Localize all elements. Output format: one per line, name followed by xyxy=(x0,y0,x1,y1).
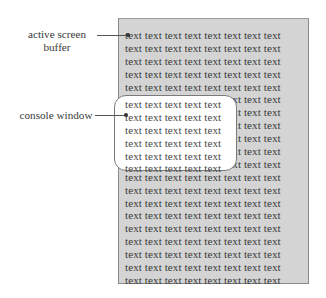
console-window: text text text text text text text text … xyxy=(114,95,237,171)
buffer-row: text text text text text text text text xyxy=(125,29,308,42)
buffer-row: text text text text text text text text xyxy=(125,235,308,248)
buffer-pointer-dot xyxy=(126,33,130,37)
buffer-row: text text text text text text text text xyxy=(125,197,308,210)
console-row: text text text text text xyxy=(125,150,221,163)
buffer-row: text text text text text text text text xyxy=(125,222,308,235)
buffer-row: text text text text text text text text xyxy=(125,274,308,287)
console-window-label: console window xyxy=(14,109,98,122)
active-screen-buffer-label: active screen buffer xyxy=(22,28,92,54)
buffer-row: text text text text text text text text xyxy=(125,248,308,261)
console-pointer-dot xyxy=(124,113,128,117)
console-leader-line xyxy=(95,115,125,116)
buffer-row: text text text text text text text text xyxy=(125,184,308,197)
console-row: text text text text text xyxy=(125,98,221,111)
active-screen-buffer-label-line1: active screen xyxy=(22,28,92,41)
console-row: text text text text text xyxy=(125,124,221,137)
buffer-row: text text text text text text text text xyxy=(125,42,308,55)
console-row: text text text text text xyxy=(125,137,221,150)
buffer-leader-line xyxy=(97,35,127,36)
buffer-row: text text text text text text text text xyxy=(125,81,308,94)
buffer-row: text text text text text text text text xyxy=(125,261,308,274)
active-screen-buffer-label-line2: buffer xyxy=(22,41,92,54)
buffer-row: text text text text text text text text xyxy=(125,55,308,68)
buffer-row: text text text text text text text text xyxy=(125,209,308,222)
buffer-row: text text text text text text text text xyxy=(125,68,308,81)
console-text-rows: text text text text text text text text … xyxy=(125,98,221,175)
console-row: text text text text text xyxy=(125,111,221,124)
console-row: text text text text text xyxy=(125,162,221,175)
